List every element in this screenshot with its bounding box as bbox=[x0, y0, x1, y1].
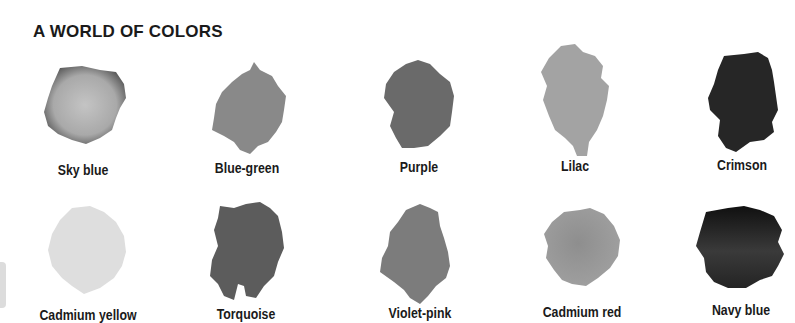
swatch-label: Sky blue bbox=[21, 162, 144, 178]
swatch-sky-blue bbox=[42, 64, 128, 146]
swatch-label: Navy blue bbox=[679, 302, 795, 318]
page-edge-tab bbox=[0, 262, 6, 308]
swatch-cadmium-yellow bbox=[44, 204, 130, 296]
swatch-violet-pink bbox=[376, 200, 458, 304]
swatch-label: Purple bbox=[357, 159, 480, 175]
swatch-blue-green bbox=[206, 60, 290, 156]
swatch-label: Blue-green bbox=[185, 160, 308, 176]
swatch-lilac bbox=[537, 42, 613, 160]
swatch-label: Crimson bbox=[680, 157, 795, 173]
swatch-cadmium-red bbox=[540, 206, 622, 290]
page-title: A WORLD OF COLORS bbox=[33, 22, 223, 42]
swatch-label: Cadmium yellow bbox=[26, 307, 149, 323]
swatch-label: Cadmium red bbox=[520, 304, 643, 320]
swatch-label: Lilac bbox=[513, 158, 636, 174]
swatch-purple bbox=[378, 56, 458, 152]
swatch-navy-blue bbox=[692, 202, 786, 294]
swatch-crimson bbox=[702, 50, 782, 154]
swatch-torquoise bbox=[204, 200, 288, 304]
swatch-label: Torquoise bbox=[184, 306, 307, 322]
swatch-label: Violet-pink bbox=[358, 305, 481, 321]
